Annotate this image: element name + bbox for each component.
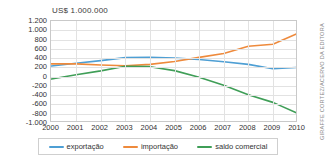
image-credit: GIRAFFE CORTEZ/ACERVO DA EDITORA [316, 0, 327, 163]
gridline-horizontal [51, 104, 296, 105]
x-axis-tick-label: 2000 [42, 123, 59, 132]
x-axis-tick-label: 2004 [141, 123, 158, 132]
chart-title: US$ 1.000.000 [52, 6, 108, 15]
gridline-horizontal [51, 58, 296, 59]
x-axis-tick-label: 2006 [190, 123, 207, 132]
gridline-horizontal [51, 86, 296, 87]
gridline-horizontal [51, 114, 296, 115]
x-axis-tick-label: 2009 [264, 123, 281, 132]
y-axis-tick-label: 1.000 [2, 25, 47, 34]
gridline-vertical [199, 21, 200, 121]
y-axis-tick-label: -800 [2, 108, 47, 117]
y-axis-tick-label: 600 [2, 43, 47, 52]
x-axis-tick-label: 2008 [239, 123, 256, 132]
x-axis-tick-label: 2007 [214, 123, 231, 132]
legend-item-exportação: exportação [49, 142, 104, 151]
y-axis: 1.2001.0008006004002000-200-400-600-800-… [0, 20, 47, 122]
gridline-vertical [150, 21, 151, 121]
gridline-vertical [101, 21, 102, 121]
gridline-vertical [76, 21, 77, 121]
x-axis-tick-label: 2010 [288, 123, 305, 132]
gridline-horizontal [51, 49, 296, 50]
image-credit-text: GIRAFFE CORTEZ/ACERVO DA EDITORA [319, 23, 325, 140]
y-axis-tick-label: 800 [2, 34, 47, 43]
x-axis-tick-label: 2001 [67, 123, 84, 132]
y-axis-tick-label: 200 [2, 62, 47, 71]
gridline-vertical [248, 21, 249, 121]
x-axis-tick-label: 2005 [165, 123, 182, 132]
chart-legend: exportaçãoimportaçãosaldo comercial [38, 138, 278, 155]
legend-swatch-icon [49, 146, 64, 148]
gridline-horizontal [51, 67, 296, 68]
legend-item-saldo-comercial: saldo comercial [197, 142, 267, 151]
x-axis-tick-label: 2003 [116, 123, 133, 132]
gridline-vertical [175, 21, 176, 121]
y-axis-tick-label: -200 [2, 80, 47, 89]
y-axis-tick-label: 0 [2, 71, 47, 80]
gridline-vertical [273, 21, 274, 121]
legend-swatch-icon [197, 146, 212, 148]
x-axis-tick-label: 2002 [91, 123, 108, 132]
gridline-horizontal [51, 40, 296, 41]
legend-item-importação: importação [123, 142, 178, 151]
y-axis-tick-label: -600 [2, 99, 47, 108]
y-axis-tick-label: 1.200 [2, 16, 47, 25]
x-axis: 2000200120022003200420052006200720082009… [50, 123, 297, 135]
gridline-horizontal [51, 95, 296, 96]
y-axis-tick-label: -1.000 [2, 118, 47, 127]
y-axis-tick-label: 400 [2, 53, 47, 62]
y-axis-tick-label: -400 [2, 90, 47, 99]
plot-area [50, 20, 297, 122]
legend-label: exportação [67, 142, 104, 151]
legend-label: saldo comercial [215, 142, 267, 151]
gridline-horizontal [51, 77, 296, 78]
chart-figure: US$ 1.000.000 1.2001.0008006004002000-20… [0, 0, 328, 163]
legend-swatch-icon [123, 146, 138, 148]
gridline-vertical [224, 21, 225, 121]
gridline-vertical [125, 21, 126, 121]
gridline-horizontal [51, 30, 296, 31]
legend-label: importação [141, 142, 178, 151]
